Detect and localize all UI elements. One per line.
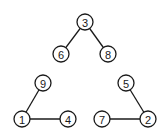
node-label: 7 — [99, 114, 105, 126]
node-label: 2 — [145, 114, 151, 126]
node-9: 9 — [35, 75, 51, 91]
node-label: 4 — [65, 114, 71, 126]
node-7: 7 — [94, 111, 110, 127]
node-4: 4 — [60, 111, 76, 127]
node-label: 8 — [105, 49, 111, 61]
tree-diagram: 368914572 — [0, 0, 166, 139]
node-5: 5 — [118, 75, 134, 91]
node-2: 2 — [140, 111, 156, 127]
edges — [22, 22, 148, 119]
node-3: 3 — [77, 14, 93, 30]
node-1: 1 — [14, 111, 30, 127]
nodes: 368914572 — [14, 14, 156, 127]
node-8: 8 — [100, 46, 116, 62]
node-label: 5 — [123, 78, 129, 90]
node-label: 9 — [40, 78, 46, 90]
node-label: 3 — [82, 17, 88, 29]
node-6: 6 — [53, 46, 69, 62]
node-label: 6 — [58, 49, 64, 61]
node-label: 1 — [19, 114, 25, 126]
